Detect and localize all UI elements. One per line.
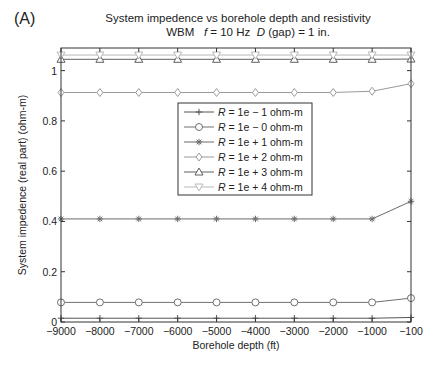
y-tick-label: 1 — [51, 65, 57, 77]
x-tick-label: −7000 — [124, 325, 154, 337]
series-triangle-down — [57, 52, 415, 59]
x-tick-label: −1000 — [357, 325, 387, 337]
y-tick-label: 0.2 — [42, 266, 57, 278]
y-tick-label: 0 — [51, 316, 57, 328]
plot-area: −9000−8000−7000−6000−5000−4000−3000−2000… — [0, 0, 446, 370]
legend: R = 1e − 1 ohm-mR = 1e − 0 ohm-mR = 1e +… — [178, 103, 312, 195]
y-tick-label: 0.6 — [42, 165, 57, 177]
x-tick-label: −4000 — [241, 325, 271, 337]
series-asterisk — [58, 198, 414, 222]
series-plus — [58, 314, 414, 321]
series-circle — [58, 295, 415, 306]
svg-text:R = 1e + 3 ohm-m: R = 1e + 3 ohm-m — [218, 166, 303, 178]
svg-text:R = 1e − 1 ohm-m: R = 1e − 1 ohm-m — [218, 106, 303, 118]
y-tick-label: 0.8 — [42, 115, 57, 127]
x-tick-label: −3000 — [280, 325, 310, 337]
svg-text:R = 1e + 2 ohm-m: R = 1e + 2 ohm-m — [218, 151, 303, 163]
x-tick-label: −5000 — [202, 325, 232, 337]
series-triangle-up — [57, 55, 415, 62]
x-tick-label: −100 — [399, 325, 423, 337]
svg-text:R = 1e − 0 ohm-m: R = 1e − 0 ohm-m — [218, 121, 303, 133]
svg-text:R = 1e + 4 ohm-m: R = 1e + 4 ohm-m — [218, 181, 303, 193]
x-tick-label: −6000 — [163, 325, 193, 337]
y-tick-label: 0.4 — [42, 215, 57, 227]
svg-text:R = 1e + 1 ohm-m: R = 1e + 1 ohm-m — [218, 136, 303, 148]
x-tick-label: −8000 — [85, 325, 115, 337]
series-diamond — [58, 80, 414, 97]
x-tick-label: −2000 — [318, 325, 348, 337]
